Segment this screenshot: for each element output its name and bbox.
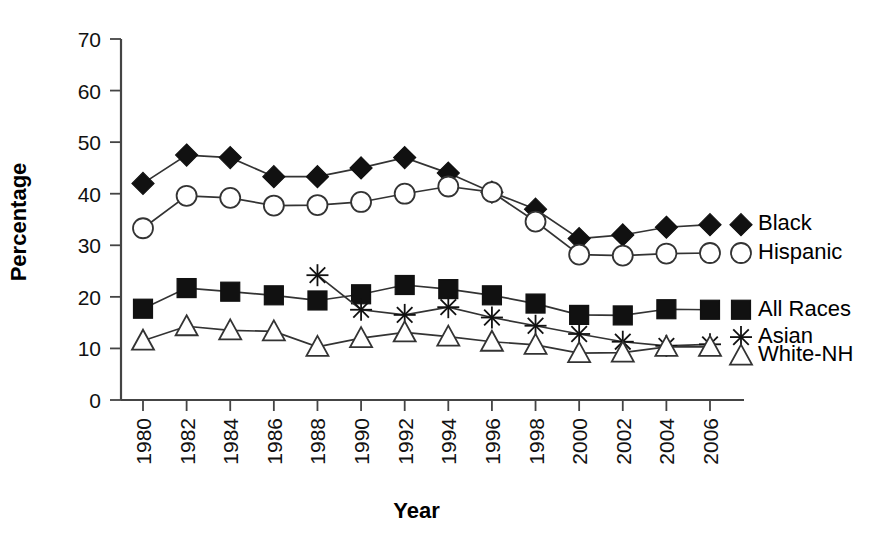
data-point-marker [132,330,154,350]
data-point-marker [177,279,196,298]
data-point-marker [394,147,416,169]
x-tick-label: 1984 [219,418,242,465]
series-hispanic [133,176,720,265]
x-tick-label: 2000 [568,418,591,465]
data-point-marker [657,300,676,319]
data-point-marker [307,195,327,215]
x-axis-title: Year [393,498,440,523]
data-point-marker [482,286,501,305]
data-point-marker [438,176,458,196]
y-tick-label: 0 [89,389,101,412]
x-tick-label: 2004 [655,418,678,465]
legend-marker-black [730,214,752,236]
legend-label-white-nh: White-NH [758,341,853,366]
data-point-marker [133,218,153,238]
y-tick-label: 50 [78,131,101,154]
data-point-marker [219,147,241,169]
series-all-races [134,275,720,324]
data-point-marker [176,315,198,335]
data-point-marker [439,280,458,299]
y-tick-label: 30 [78,234,101,257]
x-tick-label: 1994 [437,418,460,465]
data-point-marker [395,184,415,204]
data-point-marker [350,157,372,179]
data-point-marker [395,275,414,294]
data-point-marker [263,166,285,188]
data-point-marker [437,296,459,318]
x-tick-label: 2002 [612,418,635,465]
data-point-marker [264,196,284,216]
line-chart: 010203040506070 198019821984198619881990… [0,0,894,542]
y-tick-label: 60 [78,80,101,103]
x-tick-label: 1996 [481,418,504,465]
data-point-marker [699,214,721,236]
y-tick-label: 40 [78,183,101,206]
legend-label-black: Black [758,210,813,235]
x-tick-label: 1998 [525,418,548,465]
data-point-marker [350,299,372,321]
data-point-marker [306,264,328,286]
data-point-marker [700,243,720,263]
data-point-marker [221,282,240,301]
data-point-marker [482,182,502,202]
data-series-layer [132,144,721,362]
data-point-marker [613,246,633,266]
data-point-marker [656,244,676,264]
x-tick-label: 1986 [263,418,286,465]
legend-marker-white-nh [730,345,752,365]
data-point-marker [612,224,634,246]
x-axis-ticks: 1980198219841986198819901992199419961998… [132,400,722,465]
data-point-marker [701,300,720,319]
data-point-marker [570,305,589,324]
legend-label-all-races: All Races [758,296,851,321]
chart-legend: BlackHispanicAll RacesAsianWhite-NH [730,210,853,366]
data-point-marker [134,299,153,318]
legend-label-hispanic: Hispanic [758,239,842,264]
data-point-marker [526,212,546,232]
y-tick-label: 70 [78,28,101,51]
data-point-marker [655,216,677,238]
x-tick-label: 1992 [394,418,417,465]
x-tick-label: 1980 [132,418,155,465]
y-axis-title: Percentage [6,163,31,282]
x-tick-label: 1988 [306,418,329,465]
y-tick-label: 20 [78,286,101,309]
chart-container: 010203040506070 198019821984198619881990… [0,0,894,542]
x-tick-label: 1982 [176,418,199,465]
data-point-marker [264,286,283,305]
data-point-marker [176,144,198,166]
x-tick-label: 1990 [350,418,373,465]
data-point-marker [132,172,154,194]
data-point-marker [308,291,327,310]
data-point-marker [613,306,632,325]
data-point-marker [177,186,197,206]
data-point-marker [526,294,545,313]
y-tick-label: 10 [78,337,101,360]
data-point-marker [569,245,589,265]
y-axis-ticks: 010203040506070 [78,28,121,412]
legend-marker-all-races [732,300,751,319]
data-point-marker [220,188,240,208]
data-point-marker [351,192,371,212]
x-tick-label: 2006 [699,418,722,465]
data-point-marker [306,166,328,188]
data-point-marker [394,321,416,341]
data-point-marker [699,336,721,356]
legend-marker-hispanic [731,243,751,263]
data-point-marker [481,306,503,328]
